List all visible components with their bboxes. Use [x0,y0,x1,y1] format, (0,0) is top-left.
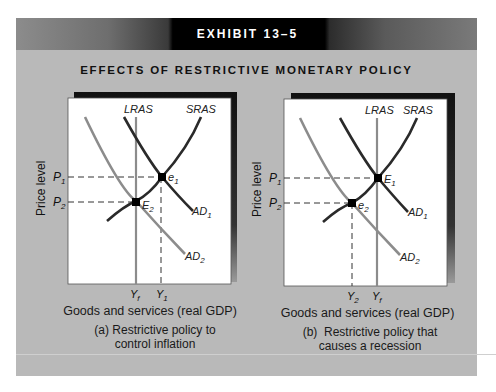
p2-tick-b: P2 [269,196,282,212]
y2-tick-b: Y2 [347,290,359,305]
lras-label-b: LRAS [365,104,394,116]
p2-tick-a: P2 [53,195,66,211]
caption-b-line1: (b) Restrictive policy that [290,325,450,339]
point-E1-b [374,174,382,182]
point-e2-b [348,199,356,207]
point-E2-a [132,198,140,206]
panel-b: LRAS SRAS AD1 AD2 E1 e2 P1 P2 Price leve… [250,93,455,305]
sras-label-a: SRAS [186,103,217,115]
point-e1-a [158,173,166,181]
p1-tick-a: P1 [53,170,65,186]
sras-label-b: SRAS [403,104,434,116]
caption-b: (b) Restrictive policy that causes a rec… [290,325,450,353]
caption-b-line2: causes a recession [290,339,450,353]
yf-tick-b: Yf [372,290,382,305]
lras-label-a: LRAS [124,103,153,115]
y-axis-label-a: Price level [34,161,48,216]
y1-tick-a: Y1 [156,288,168,303]
caption-a: (a) Restrictive policy to control inflat… [70,323,240,351]
y-axis-label-b: Price level [250,162,264,217]
p1-tick-b: P1 [269,171,281,187]
yf-tick-a: Yf [130,288,140,303]
caption-a-line2: control inflation [70,337,240,351]
panel-a: LRAS SRAS AD1 AD2 e1 E2 P1 P2 Price leve… [34,92,237,303]
caption-a-line1: (a) Restrictive policy to [70,323,240,337]
x-axis-label-b: Goods and services (real GDP) [280,306,455,320]
x-axis-label-a: Goods and services (real GDP) [60,304,240,318]
